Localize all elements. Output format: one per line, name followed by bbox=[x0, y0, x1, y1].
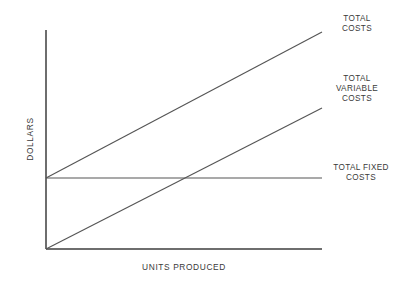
total-fixed-costs-label: TOTAL FIXED COSTS bbox=[322, 163, 400, 183]
chart-plot-area bbox=[0, 0, 405, 285]
total-variable-costs-label: TOTAL VARIABLE COSTS bbox=[326, 74, 388, 105]
y-axis-label: DOLLARS bbox=[25, 104, 35, 174]
x-axis-label: UNITS PRODUCED bbox=[46, 262, 322, 272]
total-costs-line bbox=[46, 32, 322, 178]
cost-behavior-chart: TOTAL COSTS TOTAL VARIABLE COSTS TOTAL F… bbox=[0, 0, 405, 285]
total-costs-label: TOTAL COSTS bbox=[326, 14, 388, 34]
